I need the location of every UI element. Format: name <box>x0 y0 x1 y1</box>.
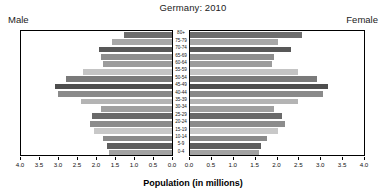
bar-row <box>21 150 172 156</box>
bar-female-20-24 <box>190 121 285 127</box>
bar-row <box>21 121 172 127</box>
bar-female-50-54 <box>190 76 317 82</box>
bar-female-80plus <box>190 32 302 38</box>
male-bar-rows <box>21 31 172 155</box>
age-label-75-79: 75-79 <box>173 39 189 44</box>
bar-female-55-59 <box>190 69 298 75</box>
age-label-40-44: 40-44 <box>173 91 189 96</box>
bar-row <box>190 69 364 75</box>
bar-row <box>21 136 172 142</box>
bar-male-55-59 <box>83 69 172 75</box>
axis-tick-label: 3.0 <box>316 161 325 168</box>
axis-tick-label: 0.0 <box>185 161 194 168</box>
bar-row <box>21 54 172 60</box>
bar-row <box>21 61 172 67</box>
bar-row <box>190 106 364 112</box>
bar-male-35-39 <box>81 99 172 105</box>
male-plot-panel <box>20 30 173 156</box>
female-x-axis-ticks: 0.00.51.01.52.02.53.03.54.0 <box>189 157 365 171</box>
bar-female-10-14 <box>190 136 267 142</box>
bar-female-25-29 <box>190 113 282 119</box>
bar-male-50-54 <box>66 76 172 82</box>
bar-male-75-79 <box>112 39 172 45</box>
age-label-45-49: 45-49 <box>173 83 189 88</box>
x-axis-title: Population (in millions) <box>0 178 386 188</box>
axis-tick-label: 1.5 <box>250 161 259 168</box>
bar-row <box>21 69 172 75</box>
bar-row <box>190 76 364 82</box>
bar-female-0-4 <box>190 150 259 156</box>
bar-male-70-74 <box>99 47 172 53</box>
bar-male-80plus <box>124 32 172 38</box>
bar-row <box>190 91 364 97</box>
age-group-axis: 80+75-7970-7465-6960-6455-5950-5445-4940… <box>173 30 189 156</box>
age-label-10-14: 10-14 <box>173 135 189 140</box>
bar-row <box>190 54 364 60</box>
bar-row <box>21 106 172 112</box>
bar-male-40-44 <box>58 91 172 97</box>
bar-female-30-34 <box>190 106 274 112</box>
bar-row <box>190 150 364 156</box>
age-label-5-9: 5-9 <box>173 142 189 147</box>
bar-male-25-29 <box>92 113 172 119</box>
axis-tick-label: 2.5 <box>294 161 303 168</box>
axis-tick-label: 0.0 <box>168 161 177 168</box>
axis-tick-label: 2.0 <box>272 161 281 168</box>
bar-row <box>21 128 172 134</box>
age-label-35-39: 35-39 <box>173 98 189 103</box>
age-label-60-64: 60-64 <box>173 61 189 66</box>
bar-row <box>190 143 364 149</box>
bar-male-10-14 <box>103 136 172 142</box>
axis-tick-label: 1.5 <box>111 161 120 168</box>
bar-male-30-34 <box>101 106 172 112</box>
bar-female-70-74 <box>190 47 291 53</box>
age-label-0-4: 0-4 <box>173 150 189 155</box>
axis-tick-label: 3.5 <box>35 161 44 168</box>
bar-male-0-4 <box>109 150 172 156</box>
age-label-30-34: 30-34 <box>173 105 189 110</box>
bar-female-35-39 <box>190 99 298 105</box>
bar-row <box>21 113 172 119</box>
age-label-20-24: 20-24 <box>173 120 189 125</box>
bar-row <box>190 128 364 134</box>
bar-row <box>190 99 364 105</box>
bar-row <box>190 136 364 142</box>
axis-tick-label: 1.0 <box>228 161 237 168</box>
female-bar-rows <box>190 31 364 155</box>
bar-row <box>190 61 364 67</box>
bar-male-5-9 <box>107 143 172 149</box>
bar-female-40-44 <box>190 91 323 97</box>
bar-row <box>21 143 172 149</box>
bar-row <box>21 84 172 90</box>
axis-tick-label: 4.0 <box>360 161 369 168</box>
axis-tick-label: 0.5 <box>149 161 158 168</box>
bar-male-60-64 <box>103 61 172 67</box>
bar-row <box>21 39 172 45</box>
axis-tick-label: 3.0 <box>54 161 63 168</box>
age-label-65-69: 65-69 <box>173 54 189 59</box>
age-label-15-19: 15-19 <box>173 128 189 133</box>
axis-tick-label: 1.0 <box>130 161 139 168</box>
bar-row <box>190 39 364 45</box>
bar-row <box>190 121 364 127</box>
bar-male-20-24 <box>90 121 172 127</box>
bar-male-15-19 <box>94 128 172 134</box>
bar-row <box>190 47 364 53</box>
axis-tick-label: 2.0 <box>92 161 101 168</box>
axis-tick-label: 0.5 <box>207 161 216 168</box>
bar-row <box>190 84 364 90</box>
bar-row <box>190 113 364 119</box>
bar-row <box>21 32 172 38</box>
age-label-50-54: 50-54 <box>173 76 189 81</box>
bar-row <box>190 32 364 38</box>
male-x-axis-ticks: 4.03.53.02.52.01.51.00.50.0 <box>20 157 173 171</box>
bar-row <box>21 47 172 53</box>
bar-female-75-79 <box>190 39 278 45</box>
chart-title: Germany: 2010 <box>0 2 386 13</box>
bar-female-15-19 <box>190 128 278 134</box>
age-label-80plus: 80+ <box>173 31 189 36</box>
bar-row <box>21 99 172 105</box>
age-label-55-59: 55-59 <box>173 68 189 73</box>
female-plot-panel <box>189 30 365 156</box>
axis-tick-label: 2.5 <box>73 161 82 168</box>
